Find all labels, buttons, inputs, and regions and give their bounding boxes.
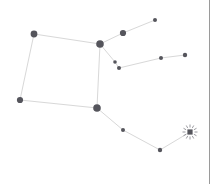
star-node[interactable] xyxy=(113,60,117,64)
constellation-edge xyxy=(97,108,123,130)
constellation-edge xyxy=(123,130,160,150)
constellation-edge xyxy=(20,34,34,100)
star-node[interactable] xyxy=(117,66,121,70)
star-node[interactable] xyxy=(183,53,187,57)
beacon-core xyxy=(187,129,192,134)
beacon-ray xyxy=(194,134,197,136)
constellation-panel xyxy=(0,0,217,184)
beacon-ray xyxy=(192,136,194,139)
constellation-edge xyxy=(100,33,123,44)
edge-layer xyxy=(20,20,190,150)
constellation-edge xyxy=(97,44,100,108)
constellation-edge xyxy=(20,100,97,108)
star-node[interactable] xyxy=(17,97,23,103)
star-node[interactable] xyxy=(31,31,38,38)
star-node[interactable] xyxy=(96,40,104,48)
star-node[interactable] xyxy=(93,104,101,112)
beacon-ray xyxy=(184,128,187,130)
constellation-edge xyxy=(119,58,161,68)
star-node[interactable] xyxy=(158,148,162,152)
constellation-edge xyxy=(34,34,100,44)
star-node[interactable] xyxy=(121,128,125,132)
beacon-ray xyxy=(186,136,188,139)
star-node[interactable] xyxy=(120,30,126,36)
beacon-ray xyxy=(192,126,194,129)
panel-divider xyxy=(209,0,210,184)
beacon-ray xyxy=(186,126,188,129)
star-node[interactable] xyxy=(153,18,157,22)
constellation-canvas[interactable] xyxy=(0,0,217,184)
beacon-star-icon[interactable] xyxy=(183,125,198,140)
constellation-edge xyxy=(123,20,155,33)
node-layer xyxy=(17,18,198,152)
beacon-ray xyxy=(194,128,197,130)
right-gutter xyxy=(210,0,217,184)
constellation-edge xyxy=(161,55,185,58)
star-node[interactable] xyxy=(159,56,163,60)
